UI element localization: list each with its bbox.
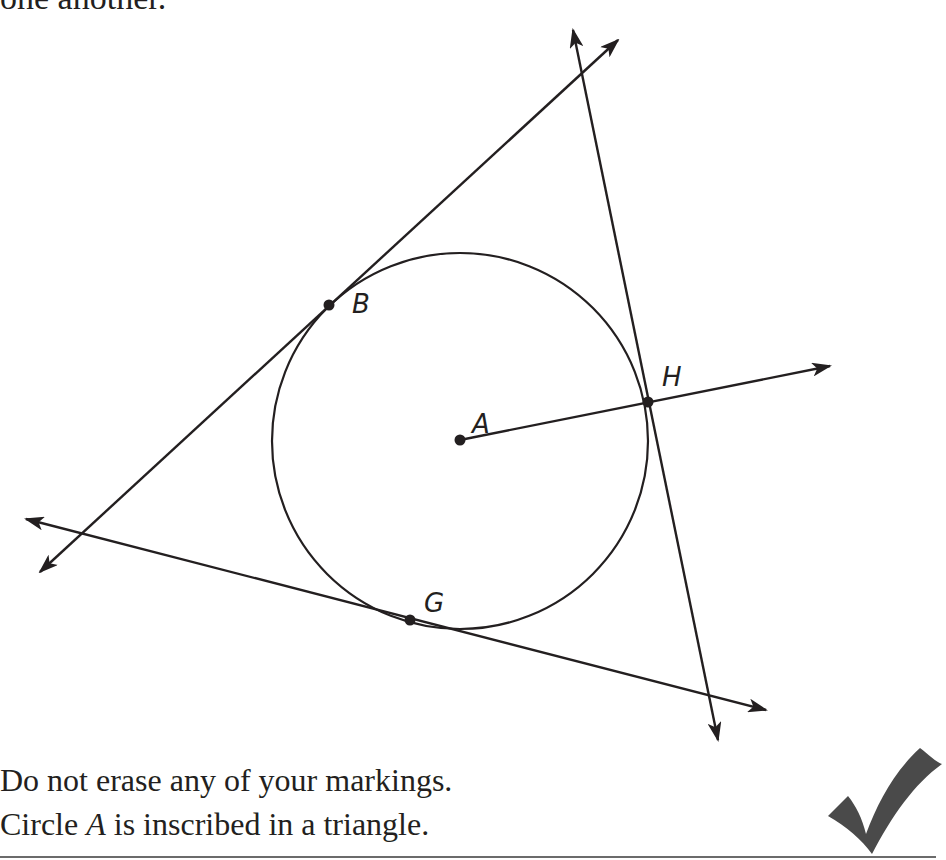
label-G: G [424,588,444,618]
statement-prefix: Circle [0,806,86,842]
geometry-diagram: A B H G [0,0,936,760]
instruction-text: Do not erase any of your markings. [0,762,452,798]
point-G [405,615,416,626]
tangent-line-G [26,519,766,710]
statement-suffix: is inscribed in a triangle. [106,806,429,842]
point-H [643,397,654,408]
point-B [324,300,335,311]
label-B: B [352,289,370,319]
checkmark-icon [826,744,946,854]
statement-variable: A [86,806,106,842]
label-H: H [662,362,682,392]
tangent-line-H [573,30,718,740]
statement-text: Circle A is inscribed in a triangle. [0,806,429,842]
point-A [455,435,466,446]
bottom-divider [0,856,936,858]
label-A: A [470,409,490,439]
